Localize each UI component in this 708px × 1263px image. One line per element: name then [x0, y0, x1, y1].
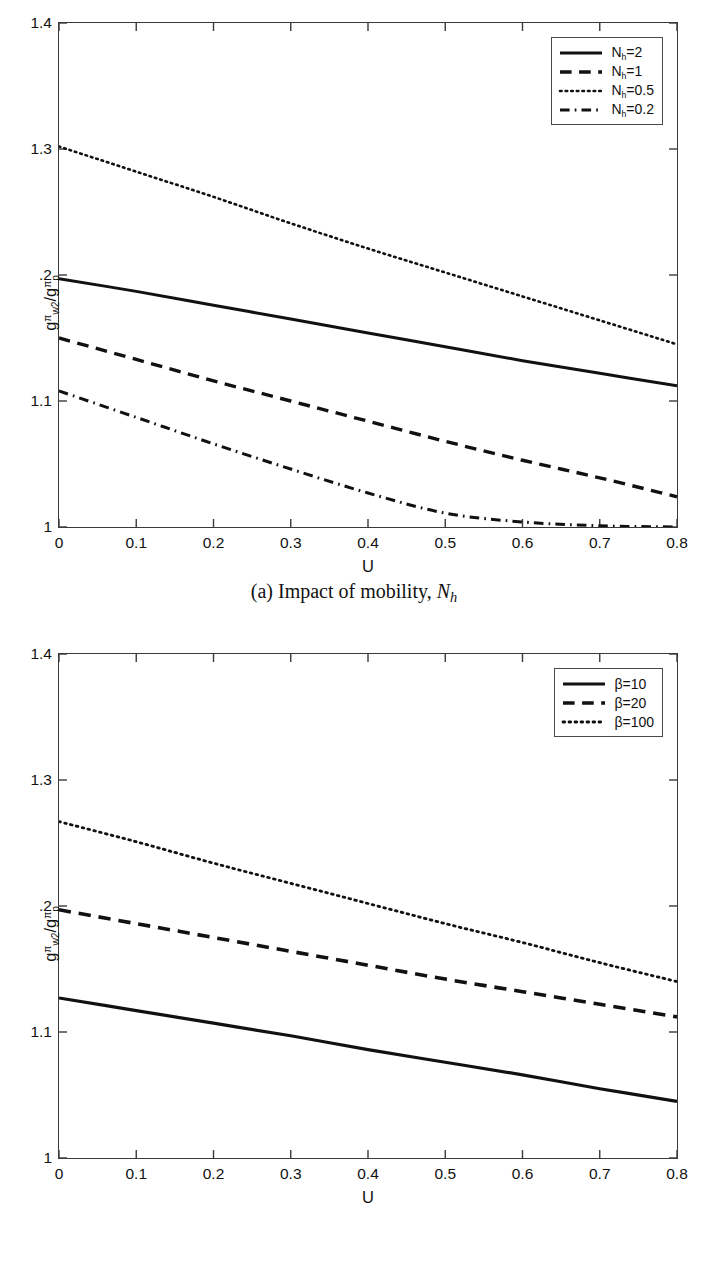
legend-label: Nh=0.2 [611, 101, 654, 119]
legend-label: Nh=1 [611, 63, 642, 81]
legend-b: β=10β=20β=100 [554, 668, 663, 737]
x-tick-label: 0.4 [357, 534, 379, 552]
x-tick-label: 0.3 [280, 534, 302, 552]
legend-a: Nh=2Nh=1Nh=0.5Nh=0.2 [551, 37, 663, 125]
series-line [59, 822, 677, 982]
x-tick-label: 0.1 [125, 1165, 147, 1183]
y-tick-label: 1 [43, 1149, 52, 1167]
x-tick-label: 0.7 [589, 534, 611, 552]
y-axis-label-a: gπw2/gπp [42, 275, 61, 331]
legend-line-sample [561, 696, 607, 710]
x-tick-label: 0.7 [589, 1165, 611, 1183]
x-tick-label: 0.5 [434, 534, 456, 552]
x-tick-label: 0.1 [125, 534, 147, 552]
legend-item[interactable]: Nh=0.5 [558, 81, 654, 100]
legend-item[interactable]: β=20 [561, 693, 654, 712]
axes-frame-b: β=10β=20β=100 11.1.21.31.400.10.20.30.40… [58, 653, 678, 1159]
x-tick-label: 0.8 [666, 534, 688, 552]
series-line [59, 391, 677, 527]
y-tick-label: 1.4 [30, 14, 52, 32]
x-tick-label: 0.8 [666, 1165, 688, 1183]
legend-item[interactable]: Nh=2 [558, 43, 654, 62]
y-tick-label: 1.1 [30, 1023, 52, 1041]
legend-item[interactable]: β=10 [561, 674, 654, 693]
figure-container: Nh=2Nh=1Nh=0.5Nh=0.2 11.1.21.31.400.10.2… [0, 0, 708, 1263]
x-axis-label: U [362, 1188, 374, 1207]
y-tick-label: 1.4 [30, 645, 52, 663]
plot-area-b: β=10β=20β=100 11.1.21.31.400.10.20.30.40… [0, 620, 708, 1180]
legend-label: β=100 [614, 714, 654, 730]
caption-a-text: (a) Impact of mobility, Nh [251, 580, 457, 602]
y-tick-label: 1.3 [30, 140, 52, 158]
series-line [59, 279, 677, 386]
legend-item[interactable]: Nh=1 [558, 62, 654, 81]
y-tick-label: 1.1 [30, 392, 52, 410]
legend-label: β=10 [614, 676, 646, 692]
axes-frame-a: Nh=2Nh=1Nh=0.5Nh=0.2 11.1.21.31.400.10.2… [58, 22, 678, 528]
legend-line-sample [558, 46, 604, 60]
chart-panel-b: β=10β=20β=100 11.1.21.31.400.10.20.30.40… [0, 620, 708, 1263]
legend-line-sample [558, 84, 604, 98]
legend-label: β=20 [614, 695, 646, 711]
legend-item[interactable]: Nh=0.2 [558, 100, 654, 119]
y-tick-label: 1.3 [30, 771, 52, 789]
series-line [59, 338, 677, 497]
legend-label: Nh=0.5 [611, 82, 654, 100]
legend-item[interactable]: β=100 [561, 712, 654, 731]
y-tick-label: 1 [43, 518, 52, 536]
caption-a: (a) Impact of mobility, Nh [0, 580, 708, 606]
x-tick-label: 0.5 [434, 1165, 456, 1183]
x-tick-label: 0 [55, 1165, 64, 1183]
x-tick-label: 0.2 [203, 1165, 225, 1183]
x-tick-label: 0.4 [357, 1165, 379, 1183]
series-line [59, 910, 677, 1017]
legend-line-sample [558, 65, 604, 79]
legend-line-sample [561, 677, 607, 691]
x-tick-label: 0.3 [280, 1165, 302, 1183]
legend-label: Nh=2 [611, 44, 642, 62]
legend-line-sample [558, 103, 604, 117]
series-line [59, 146, 677, 344]
plot-area-a: Nh=2Nh=1Nh=0.5Nh=0.2 11.1.21.31.400.10.2… [0, 0, 708, 560]
x-axis-label: U [362, 557, 374, 576]
series-line [59, 998, 677, 1101]
x-tick-label: 0 [55, 534, 64, 552]
y-axis-label-b: gπw2/gπp [42, 906, 61, 962]
x-tick-label: 0.6 [512, 534, 534, 552]
chart-panel-a: Nh=2Nh=1Nh=0.5Nh=0.2 11.1.21.31.400.10.2… [0, 0, 708, 620]
x-tick-label: 0.2 [203, 534, 225, 552]
x-tick-label: 0.6 [512, 1165, 534, 1183]
legend-line-sample [561, 715, 607, 729]
